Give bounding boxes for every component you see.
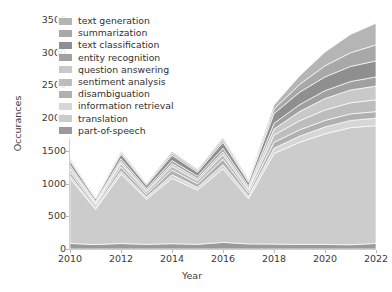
x-tick-label: 2022 [356, 253, 392, 264]
chart-legend: text generationsummarizationtext classif… [57, 13, 177, 139]
x-axis-title: Year [0, 270, 384, 281]
legend-item[interactable]: sentiment analysis [59, 76, 174, 88]
legend-item-label: question answering [78, 65, 169, 75]
legend-item[interactable]: part-of-speech [59, 125, 174, 137]
y-tick-label: 1000 [22, 179, 66, 189]
legend-item[interactable]: summarization [59, 27, 174, 39]
legend-item-label: disambiguation [78, 89, 150, 99]
legend-item-label: part-of-speech [78, 126, 146, 136]
y-tick-mark [66, 151, 69, 152]
legend-item[interactable]: entity recognition [59, 52, 174, 64]
legend-item-label: text classification [78, 40, 159, 50]
legend-item-label: information retrieval [78, 101, 174, 111]
legend-swatch-icon [59, 79, 72, 86]
legend-item-label: text generation [78, 16, 150, 26]
legend-item-label: translation [78, 114, 128, 124]
legend-swatch-icon [59, 66, 72, 73]
x-tick-label: 2014 [152, 253, 192, 264]
legend-item-label: summarization [78, 28, 147, 38]
x-tick-label: 2012 [101, 253, 141, 264]
legend-item[interactable]: question answering [59, 64, 174, 76]
legend-swatch-icon [59, 30, 72, 37]
x-tick-label: 2018 [254, 253, 294, 264]
legend-item[interactable]: information retrieval [59, 100, 174, 112]
legend-swatch-icon [59, 115, 72, 122]
y-tick-mark [66, 216, 69, 217]
legend-swatch-icon [59, 103, 72, 110]
y-axis-title: Occurances [12, 79, 23, 169]
y-tick-label: 1500 [22, 146, 66, 156]
y-tick-mark [66, 249, 69, 250]
legend-item[interactable]: translation [59, 113, 174, 125]
legend-item[interactable]: text classification [59, 39, 174, 51]
legend-swatch-icon [59, 54, 72, 61]
legend-swatch-icon [59, 42, 72, 49]
legend-item-label: entity recognition [78, 53, 160, 63]
x-tick-label: 2020 [305, 253, 345, 264]
legend-swatch-icon [59, 91, 72, 98]
legend-item[interactable]: disambiguation [59, 88, 174, 100]
legend-item[interactable]: text generation [59, 15, 174, 27]
legend-item-label: sentiment analysis [78, 77, 166, 87]
y-tick-mark [66, 184, 69, 185]
legend-swatch-icon [59, 127, 72, 134]
x-tick-label: 2016 [203, 253, 243, 264]
y-tick-label: 500 [22, 211, 66, 221]
x-tick-label: 2010 [50, 253, 90, 264]
legend-swatch-icon [59, 18, 72, 25]
